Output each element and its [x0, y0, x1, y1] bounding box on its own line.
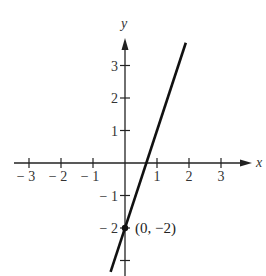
y-axis-arrow-icon [122, 38, 129, 50]
x-tick-label: − 1 [81, 169, 99, 184]
x-tick-label: − 3 [17, 169, 35, 184]
y-tick-label: 2 [111, 91, 118, 106]
x-tick-label: 3 [218, 169, 225, 184]
y-tick-label: − 1 [100, 189, 118, 204]
x-tick-label: − 2 [49, 169, 67, 184]
x-axis-label: x [255, 155, 263, 170]
point-marker [122, 225, 128, 231]
x-axis-arrow-icon [240, 160, 252, 167]
x-tick-label: 1 [154, 169, 161, 184]
axes [14, 38, 252, 276]
x-tick-label: 2 [186, 169, 193, 184]
y-tick-label: 3 [111, 59, 118, 74]
y-axis-label: y [119, 16, 128, 31]
data-series [111, 43, 186, 272]
y-tick-label: − 2 [100, 221, 118, 236]
line-plot [111, 43, 186, 272]
axis-ticks: − 3− 2− 1123− 2− 1123 [17, 59, 225, 261]
point-label: (0, −2) [135, 220, 176, 237]
coordinate-plane: − 3− 2− 1123− 2− 1123 (0, −2) x y [0, 0, 266, 276]
y-tick-label: 1 [111, 124, 118, 139]
